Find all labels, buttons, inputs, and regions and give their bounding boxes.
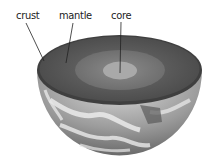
crust-label: crust xyxy=(16,10,39,21)
mantle-label: mantle xyxy=(59,10,92,21)
earth-cutaway-diagram xyxy=(0,0,211,166)
crust-leader-line xyxy=(26,23,44,61)
core-label: core xyxy=(111,10,131,21)
